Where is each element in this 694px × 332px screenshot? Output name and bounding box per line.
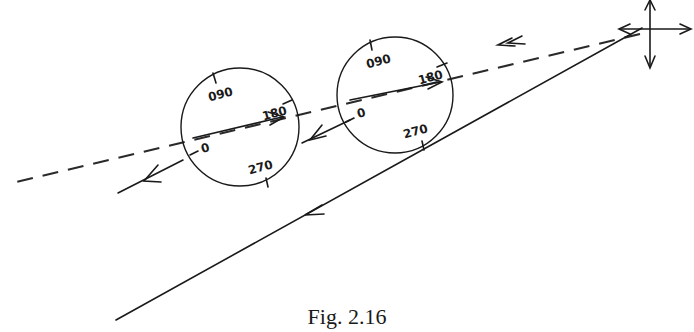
right-label-180: 180 — [417, 67, 445, 87]
left-label-180: 180 — [261, 103, 289, 123]
right-compass: 090 180 0 270 — [337, 37, 453, 153]
dashed-track-line — [12, 34, 640, 183]
left-label-0: 0 — [199, 140, 211, 156]
left-label-090: 090 — [207, 84, 235, 104]
double-arrow-head-1 — [498, 38, 515, 46]
left-compass: 090 180 0 270 — [181, 68, 299, 187]
left-segment — [118, 160, 183, 193]
double-arrow-head-2 — [508, 36, 525, 44]
solid-track-line — [116, 28, 642, 320]
left-label-270: 270 — [247, 157, 275, 177]
diagram: 090 180 0 270 090 180 0 270 — [0, 0, 694, 332]
right-label-0: 0 — [355, 105, 367, 121]
left-arrow-head — [144, 165, 161, 182]
right-label-270: 270 — [402, 121, 430, 141]
figure-caption: Fig. 2.16 — [0, 304, 694, 330]
right-label-090: 090 — [365, 51, 393, 71]
middle-segment — [302, 120, 350, 143]
